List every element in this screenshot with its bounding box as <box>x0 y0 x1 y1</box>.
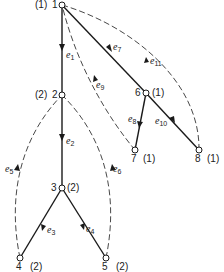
node-3 <box>59 185 65 191</box>
edge-label-e3: e3 <box>47 224 55 236</box>
edge-label-e10: e10 <box>155 115 167 127</box>
edge-label-e6: e6 <box>113 163 121 175</box>
node-2-label: 2 <box>52 89 58 100</box>
arrow-e1-icon <box>59 44 65 51</box>
edge-e9 <box>62 5 135 150</box>
node-1-label: 1 <box>52 0 58 10</box>
edge-label-e7: e7 <box>113 41 121 53</box>
edge-e8 <box>135 93 146 150</box>
node-6 <box>143 90 149 96</box>
node-6-label: 6 <box>135 87 141 98</box>
node-2 <box>59 92 65 98</box>
arrow-e4-icon <box>80 223 85 230</box>
arrow-e5-icon <box>14 164 20 171</box>
edge-label-e4: e4 <box>86 223 94 235</box>
arrow-e7-icon <box>106 44 112 52</box>
edge-e10 <box>146 93 199 150</box>
edge-label-e11: e11 <box>150 55 162 67</box>
edge-label-e1: e1 <box>66 49 74 61</box>
edge-label-e8: e8 <box>128 113 136 125</box>
node-4-label: 4 <box>16 261 22 272</box>
arrow-e2-icon <box>59 134 65 141</box>
node-3-label: 3 <box>51 182 57 193</box>
edge-label-e2: e2 <box>66 135 74 147</box>
node-6-weight: (1) <box>152 87 164 98</box>
node-1 <box>59 2 65 8</box>
node-8-weight: (1) <box>207 153 219 164</box>
node-7-weight: (1) <box>143 153 155 164</box>
edge-label-e9: e9 <box>96 79 104 91</box>
edge-label-e5: e5 <box>5 163 13 175</box>
node-8-label: 8 <box>195 153 201 164</box>
node-2-weight: (2) <box>35 89 47 100</box>
edge-e3 <box>20 188 62 258</box>
node-5-weight: (2) <box>116 261 128 272</box>
edge-e7 <box>62 5 146 93</box>
node-1-weight: (1) <box>35 0 47 10</box>
edge-e4 <box>62 188 106 258</box>
node-7-label: 7 <box>131 153 137 164</box>
graph-diagram: (1) 1 (2) 2 3 (2) 4 (2) 5 (2) 6 (1) 7 (1… <box>0 0 224 272</box>
node-4-weight: (2) <box>30 261 42 272</box>
node-3-weight: (2) <box>67 182 79 193</box>
arrow-e11-icon <box>144 57 149 63</box>
arrow-e3-icon <box>41 224 46 231</box>
node-5-label: 5 <box>102 261 108 272</box>
